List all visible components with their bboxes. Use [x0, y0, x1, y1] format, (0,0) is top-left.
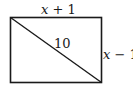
- right-side-label-rest: − 1: [110, 47, 133, 62]
- top-side-label: x + 1: [41, 3, 76, 16]
- right-side-label: x − 1: [103, 48, 133, 61]
- top-side-label-rest: + 1: [48, 2, 75, 17]
- diagonal-label: 10: [54, 37, 71, 50]
